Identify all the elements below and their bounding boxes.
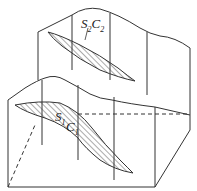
- lower-right-diagonal: [155, 130, 190, 187]
- label-s1c1: S1: [55, 110, 66, 127]
- lower-ore-body: [15, 102, 133, 173]
- upper-ore-body: [48, 32, 135, 81]
- label-s2c2: S2C2: [81, 17, 104, 34]
- hidden-edge-diagonal: [8, 125, 35, 187]
- label-c1: C1: [66, 120, 79, 137]
